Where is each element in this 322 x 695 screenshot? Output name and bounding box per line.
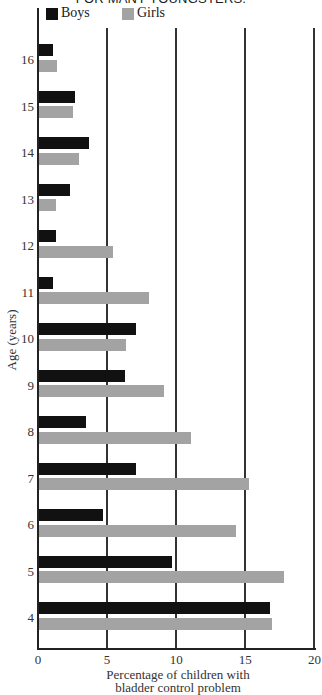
y-tick-label: 14 bbox=[14, 146, 34, 159]
bar-boys-age-11 bbox=[38, 277, 53, 289]
bar-boys-age-4 bbox=[38, 602, 270, 614]
gridline-15 bbox=[244, 28, 246, 650]
x-tick-label: 0 bbox=[23, 653, 53, 666]
bar-girls-age-16 bbox=[38, 60, 57, 72]
y-tick-label: 5 bbox=[14, 565, 34, 578]
y-tick-label: 8 bbox=[14, 425, 34, 438]
legend-label-boys: Boys bbox=[61, 6, 90, 20]
y-tick-label: 15 bbox=[14, 100, 34, 113]
y-tick-label: 6 bbox=[14, 518, 34, 531]
bar-boys-age-8 bbox=[38, 416, 86, 428]
bar-boys-age-5 bbox=[38, 556, 172, 568]
bar-girls-age-6 bbox=[38, 525, 236, 537]
y-axis-label: Age (years) bbox=[4, 310, 20, 371]
x-axis-label-line2: bladder control problem bbox=[38, 681, 318, 694]
bar-girls-age-4 bbox=[38, 618, 272, 630]
bar-boys-age-13 bbox=[38, 184, 70, 196]
bar-girls-age-8 bbox=[38, 432, 191, 444]
gridline-20 bbox=[313, 28, 315, 650]
y-tick-label: 12 bbox=[14, 239, 34, 252]
y-tick-label: 9 bbox=[14, 379, 34, 392]
bar-girls-age-5 bbox=[38, 571, 284, 583]
x-tick-label: 15 bbox=[230, 653, 260, 666]
x-tick-label: 10 bbox=[161, 653, 191, 666]
bar-girls-age-7 bbox=[38, 478, 249, 490]
bar-girls-age-14 bbox=[38, 153, 79, 165]
y-tick-label: 7 bbox=[14, 472, 34, 485]
bar-girls-age-15 bbox=[38, 106, 73, 118]
bar-girls-age-10 bbox=[38, 339, 126, 351]
bar-boys-age-9 bbox=[38, 370, 125, 382]
bar-boys-age-15 bbox=[38, 91, 75, 103]
bar-girls-age-9 bbox=[38, 385, 164, 397]
y-axis-line bbox=[37, 8, 39, 650]
bar-boys-age-10 bbox=[38, 323, 136, 335]
y-tick-label: 13 bbox=[14, 193, 34, 206]
gridline-10 bbox=[175, 28, 177, 650]
y-tick-label: 11 bbox=[14, 286, 34, 299]
bar-boys-age-7 bbox=[38, 463, 136, 475]
bar-boys-age-12 bbox=[38, 230, 56, 242]
bar-boys-age-14 bbox=[38, 137, 89, 149]
y-tick-label: 4 bbox=[14, 611, 34, 624]
legend-swatch-girls bbox=[122, 8, 134, 20]
x-tick-label: 20 bbox=[299, 653, 322, 666]
bar-girls-age-11 bbox=[38, 292, 149, 304]
y-tick-label: 16 bbox=[14, 53, 34, 66]
bar-girls-age-12 bbox=[38, 246, 113, 258]
legend-label-girls: Girls bbox=[137, 6, 165, 20]
x-axis-line bbox=[37, 648, 316, 650]
bar-boys-age-6 bbox=[38, 509, 103, 521]
legend-swatch-boys bbox=[46, 8, 58, 20]
x-tick-label: 5 bbox=[92, 653, 122, 666]
bar-girls-age-13 bbox=[38, 199, 56, 211]
bar-boys-age-16 bbox=[38, 44, 53, 56]
